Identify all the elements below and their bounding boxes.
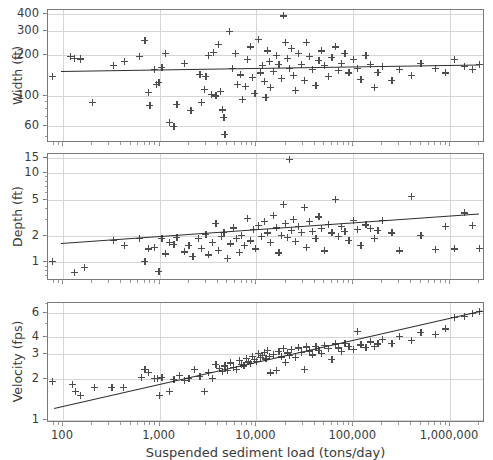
x-tick-minor	[130, 422, 131, 425]
x-tick-minor	[255, 422, 256, 425]
x-tick-minor	[478, 422, 479, 425]
data-point	[417, 329, 424, 336]
plot-area-velocity	[47, 302, 484, 422]
x-gridline	[160, 303, 161, 421]
x-tick-minor	[348, 422, 349, 425]
data-point	[77, 392, 84, 399]
x-gridline	[353, 303, 354, 421]
data-point	[138, 374, 145, 381]
x-tick-minor	[331, 422, 332, 425]
x-tick-minor	[410, 422, 411, 425]
x-tick-minor	[381, 422, 382, 425]
data-point	[301, 366, 308, 373]
x-tick-minor	[445, 422, 446, 425]
x-tick-minor	[440, 422, 441, 425]
x-tick-minor	[314, 422, 315, 425]
y-gridline	[48, 420, 483, 421]
x-gridline	[63, 303, 64, 421]
data-point	[201, 388, 208, 395]
data-point	[166, 388, 173, 395]
x-tick-minor	[234, 422, 235, 425]
x-tick-minor	[241, 422, 242, 425]
x-tick-minor	[323, 422, 324, 425]
x-tick-minor	[302, 422, 303, 425]
x-tick-minor	[62, 422, 63, 425]
data-point	[158, 374, 165, 381]
data-point	[156, 392, 163, 399]
x-axis-title: Suspended sediment load (tons/day)	[47, 445, 484, 460]
x-tick-minor	[420, 422, 421, 425]
x-tick-minor	[449, 422, 450, 425]
x-tick-label: 100,000	[328, 428, 376, 442]
y-axis-title-velocity: Velocity (fps)	[10, 302, 25, 422]
data-point	[442, 325, 449, 332]
data-point	[108, 384, 115, 391]
x-tick-minor	[58, 422, 59, 425]
trend-line	[54, 311, 482, 409]
y-tick-minor	[45, 323, 48, 324]
data-point	[432, 331, 439, 338]
y-gridline	[48, 379, 483, 380]
x-tick-label: 1,000	[142, 428, 175, 442]
x-tick-minor	[251, 422, 252, 425]
data-point	[408, 337, 415, 344]
x-tick-label: 100	[51, 428, 73, 442]
x-tick-minor	[159, 422, 160, 425]
data-point	[91, 384, 98, 391]
y-tick-minor	[45, 419, 48, 420]
x-gridline	[450, 303, 451, 421]
x-tick-minor	[120, 422, 121, 425]
x-tick-minor	[352, 422, 353, 425]
data-point	[396, 333, 403, 340]
data-point	[69, 381, 76, 388]
x-tick-minor	[434, 422, 435, 425]
data-point	[328, 356, 335, 363]
x-tick-minor	[149, 422, 150, 425]
data-point	[350, 346, 357, 353]
x-tick-label: 1,000,000	[420, 428, 479, 442]
y-tick-minor	[45, 378, 48, 379]
x-tick-minor	[285, 422, 286, 425]
x-tick-minor	[137, 422, 138, 425]
data-point	[379, 336, 386, 343]
x-tick-minor	[188, 422, 189, 425]
data-point	[273, 367, 280, 374]
data-point	[209, 375, 216, 382]
x-tick-minor	[53, 422, 54, 425]
y-gridline	[48, 313, 483, 314]
x-tick-minor	[246, 422, 247, 425]
x-tick-minor	[343, 422, 344, 425]
x-tick-minor	[144, 422, 145, 425]
x-tick-minor	[205, 422, 206, 425]
x-tick-label: 10,000	[235, 428, 275, 442]
x-tick-minor	[428, 422, 429, 425]
y-gridline	[48, 337, 483, 338]
y-tick-minor	[45, 353, 48, 354]
x-tick-minor	[108, 422, 109, 425]
data-point	[49, 378, 56, 385]
x-tick-minor	[217, 422, 218, 425]
x-tick-minor	[337, 422, 338, 425]
x-tick-minor	[154, 422, 155, 425]
x-tick-minor	[226, 422, 227, 425]
data-point	[282, 359, 289, 366]
y-tick-minor	[45, 312, 48, 313]
y-tick-minor	[45, 336, 48, 337]
x-tick-minor	[398, 422, 399, 425]
x-tick-minor	[91, 422, 92, 425]
data-point	[388, 340, 395, 347]
data-point	[338, 348, 345, 355]
y-tick-minor	[45, 303, 48, 304]
data-point	[120, 384, 127, 391]
data-point	[354, 328, 361, 335]
data-point	[191, 366, 198, 373]
